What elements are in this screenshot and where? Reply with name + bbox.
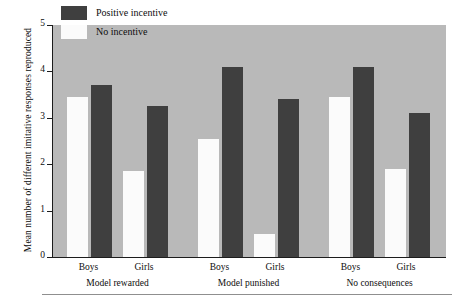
x-axis-category-label: Boys (79, 262, 99, 272)
legend-swatch-icon-no-incentive (61, 25, 87, 39)
y-axis-tick-label: 0 (32, 250, 45, 260)
bar-positive-incentive (91, 85, 112, 257)
x-axis-category-label: Girls (266, 262, 285, 272)
bar-positive-incentive (353, 67, 374, 257)
y-axis-tick-label: 5 (32, 18, 45, 28)
y-axis-title: Mean number of different imitative respo… (23, 20, 33, 260)
bar-positive-incentive (222, 67, 243, 257)
plot-area: 012345 (52, 25, 446, 258)
x-axis-group-label: Model rewarded (86, 278, 149, 288)
y-axis-tick-label: 1 (32, 204, 45, 214)
x-axis-category-label: Boys (210, 262, 230, 272)
bar-no-incentive (254, 234, 275, 257)
bar-no-incentive (329, 97, 350, 257)
y-axis-tick (47, 257, 53, 258)
x-axis-group-label: No consequences (346, 278, 412, 288)
x-axis-group-label: Model punished (218, 278, 279, 288)
y-axis-tick (47, 71, 53, 72)
x-axis-category-label: Boys (341, 262, 361, 272)
chart-legend: Positive incentive No incentive (61, 3, 167, 41)
y-axis-tick-label: 4 (32, 64, 45, 74)
bar-chart-figure: Mean number of different imitative respo… (0, 0, 457, 299)
y-axis-tick (47, 164, 53, 165)
y-axis-tick (47, 211, 53, 212)
y-axis-tick (47, 25, 53, 26)
bar-positive-incentive (409, 113, 430, 257)
legend-label-no-incentive: No incentive (96, 26, 147, 37)
bar-positive-incentive (147, 106, 168, 257)
x-axis-category-label: Girls (135, 262, 154, 272)
legend-item-no-incentive: No incentive (61, 22, 167, 41)
legend-item-positive-incentive: Positive incentive (61, 3, 167, 22)
bar-no-incentive (198, 139, 219, 257)
bar-no-incentive (67, 97, 88, 257)
legend-label-positive-incentive: Positive incentive (96, 7, 167, 18)
bottom-rule-divider (42, 294, 452, 295)
legend-swatch-icon-positive-incentive (61, 6, 87, 20)
y-axis-tick-label: 2 (32, 157, 45, 167)
bar-no-incentive (385, 169, 406, 257)
bar-no-incentive (123, 171, 144, 257)
y-axis-tick (47, 118, 53, 119)
bar-positive-incentive (278, 99, 299, 257)
x-axis-category-label: Girls (397, 262, 416, 272)
y-axis-tick-label: 3 (32, 111, 45, 121)
